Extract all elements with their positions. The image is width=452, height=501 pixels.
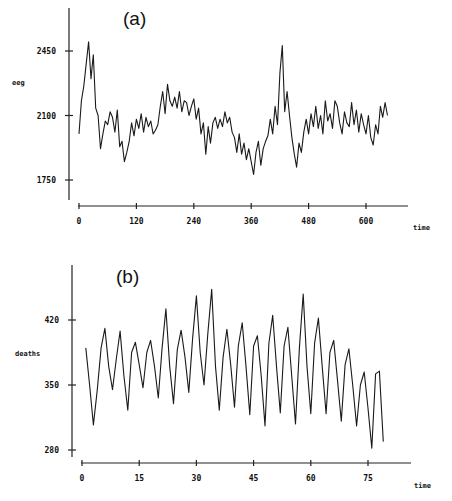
panel-b-y-label: deaths — [15, 350, 40, 358]
panel-b-y-ticks: 280350420 — [45, 316, 76, 455]
panel-b-deaths: (b) 280350420 01530456075 deaths time — [15, 265, 431, 490]
y-tick-label: 350 — [45, 381, 60, 390]
x-tick-label: 0 — [77, 217, 82, 226]
panel-b-x-label: time — [414, 482, 431, 490]
y-tick-label: 420 — [45, 316, 60, 325]
panel-a-eeg: (a) 175021002450 0120240360480600 eeg ti… — [12, 8, 430, 232]
x-tick-label: 15 — [134, 474, 144, 483]
y-tick-label: 280 — [45, 446, 60, 455]
y-tick-label: 2100 — [37, 112, 56, 121]
x-tick-label: 30 — [192, 474, 202, 483]
x-tick-label: 60 — [306, 474, 316, 483]
panel-a-y-label: eeg — [12, 79, 25, 87]
panel-a-y-ticks: 175021002450 — [37, 47, 73, 185]
x-tick-label: 75 — [363, 474, 373, 483]
y-tick-label: 2450 — [37, 47, 56, 56]
x-tick-label: 120 — [129, 217, 144, 226]
x-tick-label: 45 — [249, 474, 259, 483]
x-tick-label: 240 — [187, 217, 202, 226]
x-tick-label: 0 — [80, 474, 85, 483]
panel-a-label: (a) — [123, 8, 146, 29]
y-tick-label: 1750 — [37, 176, 56, 185]
panel-a-x-label: time — [413, 224, 430, 232]
panel-a-eeg-line — [79, 42, 388, 175]
x-tick-label: 480 — [301, 217, 316, 226]
panel-b-deaths-line — [86, 289, 384, 448]
figure: (a) 175021002450 0120240360480600 eeg ti… — [0, 0, 452, 501]
x-tick-label: 360 — [244, 217, 259, 226]
panel-b-label: (b) — [116, 266, 139, 287]
x-tick-label: 600 — [359, 217, 374, 226]
